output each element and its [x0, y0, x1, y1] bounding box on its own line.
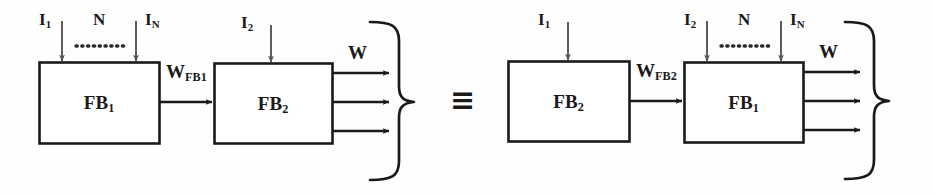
right-output-label: W	[819, 42, 838, 61]
left-fb2-input-label-i2: I2	[241, 14, 253, 31]
left-fb1-input-count-label: N	[93, 11, 105, 28]
left-block-fb1-label: FB1	[39, 93, 159, 112]
right-fb2-input-label-i1: I1	[538, 11, 550, 28]
right-block-fb2-label: FB2	[508, 92, 629, 111]
right-block-fb1-label: FB1	[684, 93, 803, 112]
left-fb1-input-label-in: IN	[145, 11, 160, 28]
left-block-fb2-label: FB2	[214, 94, 332, 113]
left-fb1-input-label-i1: I1	[39, 11, 51, 28]
equivalence-symbol: ≡	[450, 85, 475, 115]
left-interconnect-label: WFB1	[166, 62, 207, 81]
left-output-label: W	[348, 43, 367, 62]
right-fb1-input-label-i2: I2	[684, 11, 696, 28]
right-fb1-input-label-in: IN	[790, 11, 805, 28]
right-fb1-input-count-label: N	[738, 11, 750, 28]
diagram-canvas: I1 N IN FB1 WFB1 I2 FB2 W ≡ I1 FB2 WFB2 …	[0, 0, 935, 194]
right-interconnect-label: WFB2	[636, 61, 677, 80]
